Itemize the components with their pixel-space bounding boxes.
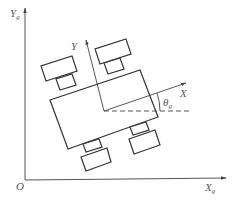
wheel-top-right xyxy=(95,39,131,74)
robot-x-label: X xyxy=(179,87,188,99)
global-x-axis xyxy=(25,178,226,180)
global-y-label: Yg xyxy=(10,7,20,21)
robot-pose-diagram: Yg O Xg Y X θg xyxy=(0,0,232,204)
robot xyxy=(41,39,160,171)
angle-arc xyxy=(157,93,160,111)
robot-y-label: Y xyxy=(71,40,79,52)
wheel-top-left xyxy=(41,56,77,90)
origin-label: O xyxy=(16,180,24,192)
global-x-label: Xg xyxy=(204,181,216,195)
wheel-bottom-left xyxy=(81,139,111,171)
wheel-bottom-right xyxy=(129,122,160,154)
angle-label: θg xyxy=(163,96,172,110)
